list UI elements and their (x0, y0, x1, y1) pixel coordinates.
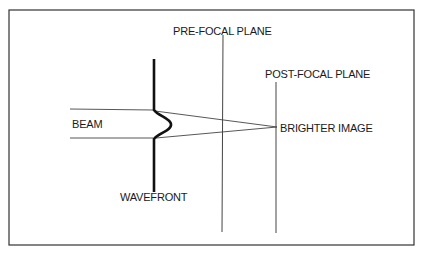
post-focal-plane-label: POST-FOCAL PLANE (265, 68, 370, 80)
ray-lower (156, 127, 277, 138)
brighter-image-label: BRIGHTER IMAGE (280, 122, 373, 134)
wavefront-label: WAVEFRONT (120, 191, 187, 203)
beam-upper-line (70, 109, 153, 110)
pre-focal-plane-label: PRE-FOCAL PLANE (173, 25, 272, 37)
pre-focal-plane-line (222, 35, 223, 232)
ray-upper (155, 111, 277, 127)
beam-label: BEAM (72, 118, 102, 130)
wavefront-line (154, 59, 171, 192)
